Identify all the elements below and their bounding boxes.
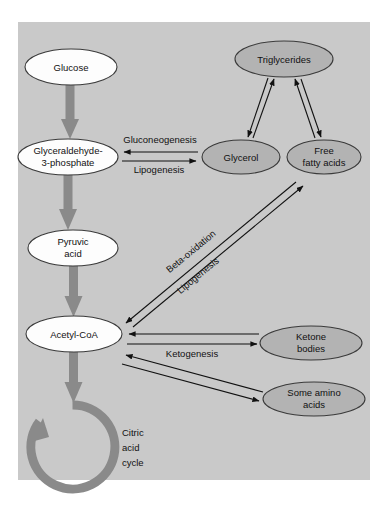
arrow-glycerol-to-triglycerides bbox=[253, 79, 274, 138]
arrow-beta-oxidation bbox=[126, 182, 296, 323]
arrows-acetylcoa-ffa bbox=[126, 182, 303, 327]
node-ketone-bodies[interactable]: Ketone bodies bbox=[260, 326, 362, 360]
arrows-triglycerides-glycerol bbox=[248, 78, 274, 138]
node-glyceraldehyde-3-phosphate[interactable]: Glyceraldehyde- 3-phosphate bbox=[18, 139, 118, 175]
node-ketone-bodies-label-line1: Ketone bbox=[296, 331, 326, 342]
node-triglycerides[interactable]: Triglycerides bbox=[235, 41, 333, 77]
node-some-amino-acids-label-line1: Some amino bbox=[287, 387, 340, 398]
arrow-glucose-to-g3p bbox=[61, 84, 79, 139]
node-acetyl-coa-label: Acetyl-CoA bbox=[50, 329, 98, 340]
arrow-ffa-to-triglycerides bbox=[295, 79, 315, 138]
label-gluconeogenesis: Gluconeogenesis bbox=[123, 134, 197, 145]
arrow-triglycerides-to-glycerol bbox=[248, 78, 268, 137]
arrow-triglycerides-to-ffa bbox=[301, 79, 321, 137]
node-pyruvic-label-line1: Pyruvic bbox=[57, 236, 88, 247]
label-citric-acid-cycle-line2: acid bbox=[122, 442, 139, 453]
node-pyruvic-label-line2: acid bbox=[64, 248, 81, 259]
arrow-amino-acids-to-acetylcoa bbox=[126, 355, 263, 392]
node-free-fatty-acids-label-line2: fatty acids bbox=[303, 157, 346, 168]
arrows-g3p-glycerol bbox=[122, 152, 198, 161]
node-glucose[interactable]: Glucose bbox=[25, 49, 117, 85]
label-citric-acid-cycle-line1: Citric bbox=[122, 427, 144, 438]
node-free-fatty-acids[interactable]: Free fatty acids bbox=[287, 140, 361, 174]
node-some-amino-acids[interactable]: Some amino acids bbox=[263, 382, 365, 416]
citric-acid-cycle-ring bbox=[31, 405, 115, 489]
node-some-amino-acids-label-line2: acids bbox=[303, 399, 325, 410]
arrow-pyruvic-to-acetylcoa bbox=[65, 265, 83, 317]
arrow-acetylcoa-to-cycle bbox=[65, 351, 83, 403]
label-ketogenesis: Ketogenesis bbox=[166, 348, 219, 359]
arrow-g3p-to-pyruvic bbox=[59, 174, 77, 230]
figure-canvas: Glucose Glyceraldehyde- 3-phosphate Pyru… bbox=[0, 0, 381, 522]
arrow-lipogenesis-diagonal bbox=[133, 186, 303, 327]
arrow-acetylcoa-to-amino-acids bbox=[122, 364, 259, 401]
node-glycerol-label: Glycerol bbox=[224, 152, 259, 163]
metabolic-pathway-diagram: Glucose Glyceraldehyde- 3-phosphate Pyru… bbox=[0, 0, 381, 522]
node-ketone-bodies-label-line2: bodies bbox=[297, 343, 325, 354]
node-free-fatty-acids-label-line1: Free bbox=[314, 145, 334, 156]
node-acetyl-coa[interactable]: Acetyl-CoA bbox=[26, 316, 122, 352]
node-glycerol[interactable]: Glycerol bbox=[202, 140, 280, 174]
label-lipogenesis-horizontal: Lipogenesis bbox=[134, 164, 185, 175]
node-triglycerides-label: Triglycerides bbox=[257, 54, 311, 65]
arrows-triglycerides-ffa bbox=[295, 79, 321, 138]
label-citric-acid-cycle-line3: cycle bbox=[122, 457, 144, 468]
node-g3p-label-line2: 3-phosphate bbox=[42, 157, 95, 168]
arrows-acetylcoa-amino-acids bbox=[122, 355, 263, 401]
node-pyruvic-acid[interactable]: Pyruvic acid bbox=[28, 230, 118, 266]
node-glucose-label: Glucose bbox=[54, 62, 89, 73]
node-g3p-label-line1: Glyceraldehyde- bbox=[33, 145, 102, 156]
arrows-acetylcoa-ketone-bodies bbox=[127, 334, 259, 344]
